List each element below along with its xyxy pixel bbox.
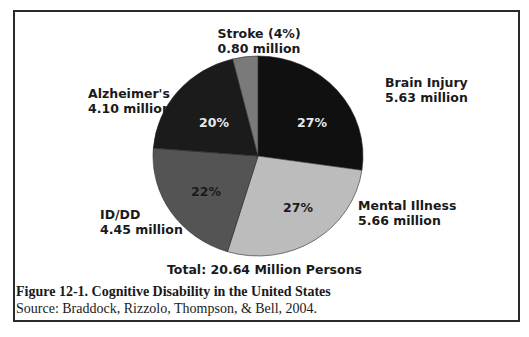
figure-source: Source: Braddock, Rizzolo, Thompson, & B… — [16, 300, 331, 317]
pct-brain-injury: 27% — [297, 115, 327, 130]
label-id-dd-value: 4.45 million — [100, 222, 183, 237]
label-brain-injury: Brain Injury 5.63 million — [385, 75, 468, 105]
label-id-dd-name: ID/DD — [100, 207, 183, 222]
label-stroke-value: 0.80 million — [214, 41, 304, 56]
label-mental-illness-name: Mental Illness — [358, 198, 456, 213]
label-mental-illness: Mental Illness 5.66 million — [358, 198, 456, 228]
label-alzheimers-name: Alzheimer's — [88, 86, 164, 101]
label-alzheimers-value: 4.10 million — [88, 101, 164, 116]
total-label: Total: 20.64 Million Persons — [0, 262, 529, 277]
pct-mental-illness: 27% — [283, 200, 313, 215]
label-stroke: Stroke (4%) 0.80 million — [214, 26, 304, 56]
label-mental-illness-value: 5.66 million — [358, 213, 456, 228]
pie-slice-brain-injury — [258, 56, 363, 170]
figure-title: Figure 12-1. Cognitive Disability in the… — [16, 283, 331, 300]
figure-caption: Figure 12-1. Cognitive Disability in the… — [16, 283, 331, 317]
pct-id-dd: 22% — [191, 184, 221, 199]
label-stroke-name: Stroke (4%) — [214, 26, 304, 41]
label-brain-injury-value: 5.63 million — [385, 90, 468, 105]
label-alzheimers: Alzheimer's 4.10 million — [88, 86, 164, 116]
label-brain-injury-name: Brain Injury — [385, 75, 468, 90]
label-id-dd: ID/DD 4.45 million — [100, 207, 183, 237]
pct-alzheimers: 20% — [199, 115, 229, 130]
